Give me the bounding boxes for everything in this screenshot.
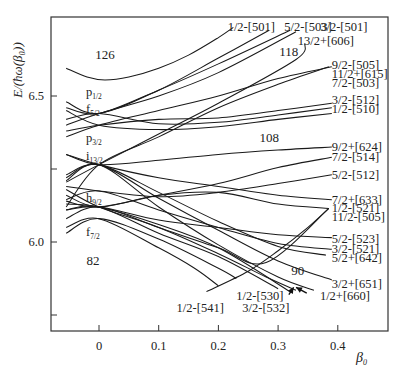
level-curve <box>66 147 332 165</box>
level-curve <box>66 108 332 125</box>
level-label: 7/2-[514] <box>332 150 379 164</box>
level-curve <box>66 30 269 113</box>
nilsson-diagram: 00.10.20.30.4 6.06.5 1/2-[501]5/2-[503]3… <box>0 0 402 380</box>
level-curve <box>66 67 329 207</box>
level-label: 1/2-[510] <box>332 102 379 116</box>
orbital-label: p1/2 <box>86 85 102 101</box>
level-label: 1/2-[541] <box>177 301 224 315</box>
magic-number: 118 <box>279 44 298 59</box>
x-tick-label: 0.1 <box>151 339 167 353</box>
orbital-label: p3/2 <box>86 131 102 147</box>
level-curve <box>66 30 290 114</box>
level-curve <box>66 219 236 279</box>
level-curve <box>66 175 332 197</box>
y-axis-label: E/(ħω(β₀)) <box>10 42 25 99</box>
level-label: 7/2-[503] <box>332 76 379 90</box>
magic-number: 126 <box>95 47 115 62</box>
orbital-label: f7/2 <box>86 225 100 241</box>
y-axis-ticks: 6.06.5 <box>28 89 57 315</box>
magic-number: 82 <box>87 253 100 268</box>
y-tick-label: 6.0 <box>28 235 44 249</box>
x-tick-label: 0 <box>96 339 102 353</box>
level-label: 1/2-[501] <box>228 20 275 34</box>
level-label: 3/2-[501] <box>320 20 367 34</box>
x-tick-label: 0.3 <box>270 339 286 353</box>
level-labels: 1/2-[501]5/2-[503]3/2-[501]13/2+[606]9/2… <box>177 20 388 314</box>
x-tick-label: 0.4 <box>330 339 346 353</box>
single-particle-levels <box>66 27 332 291</box>
y-tick-label: 6.5 <box>28 89 44 103</box>
x-axis-label: β0 <box>355 350 367 367</box>
magic-number: 90 <box>291 263 304 278</box>
level-curve <box>66 27 233 80</box>
x-axis-ticks: 00.10.20.30.4 <box>96 325 346 353</box>
x-tick-label: 0.2 <box>211 339 227 353</box>
orbital-label: f5/2 <box>86 102 100 118</box>
magic-number: 108 <box>259 130 279 145</box>
level-label: 13/2+[606] <box>298 34 354 48</box>
level-label: 11/2-[505] <box>332 210 385 224</box>
orbital-label: i13/2 <box>86 149 103 165</box>
level-label: 5/2+[642] <box>332 251 382 265</box>
level-label: 1/2+[660] <box>320 289 370 303</box>
orbital-label: h9/2 <box>86 191 102 207</box>
level-label: 3/2-[532] <box>242 301 289 315</box>
spherical-orbital-labels: p1/2f5/2p3/2i13/2h9/2f7/2 <box>86 85 103 241</box>
level-label: 5/2-[512] <box>332 168 379 182</box>
